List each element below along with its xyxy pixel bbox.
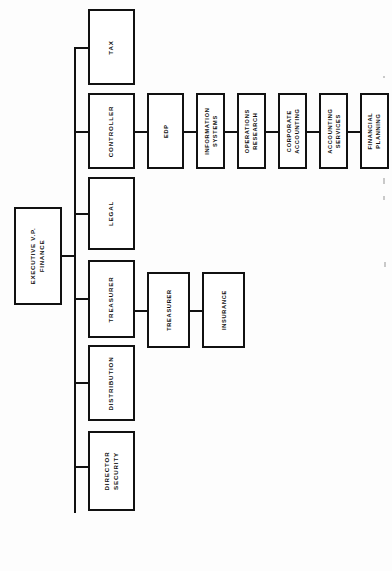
node-corporate-accounting[interactable]: CORPORATE ACCOUNTING [278,93,307,169]
connector-information-systems-operations-research [225,131,237,133]
node-label-operations-research: OPERATIONS RESEARCH [243,109,259,153]
connector-main-trunk [74,47,76,513]
node-director-security[interactable]: DIRECTOR SECURITY [88,431,135,511]
node-treasurer-sub[interactable]: TREASURER [147,272,190,348]
scan-artifact [383,196,385,200]
connector-corporate-accounting-accounting-services [307,131,319,133]
scan-artifact [383,178,385,184]
connector-branch-distribution [74,382,88,384]
connector-branch-treasurer [74,298,88,300]
node-label-accounting-services: ACCOUNTING SERVICES [325,108,341,153]
node-label-director-security: DIRECTOR SECURITY [103,451,121,490]
node-accounting-services[interactable]: ACCOUNTING SERVICES [319,93,348,169]
connector-treasurer-treasurer-sub [135,310,147,312]
connector-branch-controller [74,131,88,133]
node-label-controller: CONTROLLER [107,105,116,156]
node-information-systems[interactable]: INFORMATION SYSTEMS [196,93,225,169]
connector-treasurer-sub-insurance [190,310,202,312]
connector-controller-edp [135,131,147,133]
connector-branch-tax [74,47,88,49]
node-distribution[interactable]: DISTRIBUTION [88,345,135,421]
scan-artifact [383,76,385,78]
node-operations-research[interactable]: OPERATIONS RESEARCH [237,93,266,169]
node-label-information-systems: INFORMATION SYSTEMS [202,107,218,154]
node-label-distribution: DISTRIBUTION [107,356,116,410]
node-label-insurance: INSURANCE [219,290,227,330]
scan-artifact [384,262,386,267]
node-label-edp: EDP [161,124,169,138]
node-label-legal: LEGAL [107,201,116,226]
node-treasurer[interactable]: TREASURER [88,260,135,338]
node-label-financial-planning: FINANCIAL PLANNING [366,113,382,150]
node-label-tax: TAX [107,40,116,54]
connector-branch-director-security [74,466,88,468]
node-edp[interactable]: EDP [147,93,184,169]
node-financial-planning[interactable]: FINANCIAL PLANNING [360,93,389,169]
connector-edp-information-systems [184,131,196,133]
org-chart-canvas: EXECUTIVE V.P. FINANCE TAX CONTROLLER LE… [0,0,392,571]
node-tax[interactable]: TAX [88,9,135,85]
node-legal[interactable]: LEGAL [88,177,135,250]
node-label-corporate-accounting: CORPORATE ACCOUNTING [284,108,300,153]
node-label-treasurer-sub: TREASURER [164,289,172,331]
node-label-treasurer: TREASURER [107,276,116,322]
connector-operations-research-corporate-accounting [266,131,278,133]
node-insurance[interactable]: INSURANCE [202,272,245,348]
connector-branch-legal [74,213,88,215]
node-label-executive-vp-finance: EXECUTIVE V.P. FINANCE [29,228,47,285]
connector-accounting-services-financial-planning [348,131,360,133]
node-executive-vp-finance[interactable]: EXECUTIVE V.P. FINANCE [14,207,62,305]
node-controller[interactable]: CONTROLLER [88,93,135,169]
